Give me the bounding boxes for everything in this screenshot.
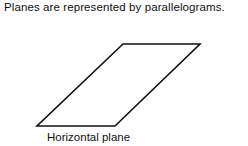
figure-label: Horizontal plane xyxy=(47,131,130,143)
parallelogram-plane-figure xyxy=(0,0,248,146)
parallelogram-shape xyxy=(37,44,200,126)
